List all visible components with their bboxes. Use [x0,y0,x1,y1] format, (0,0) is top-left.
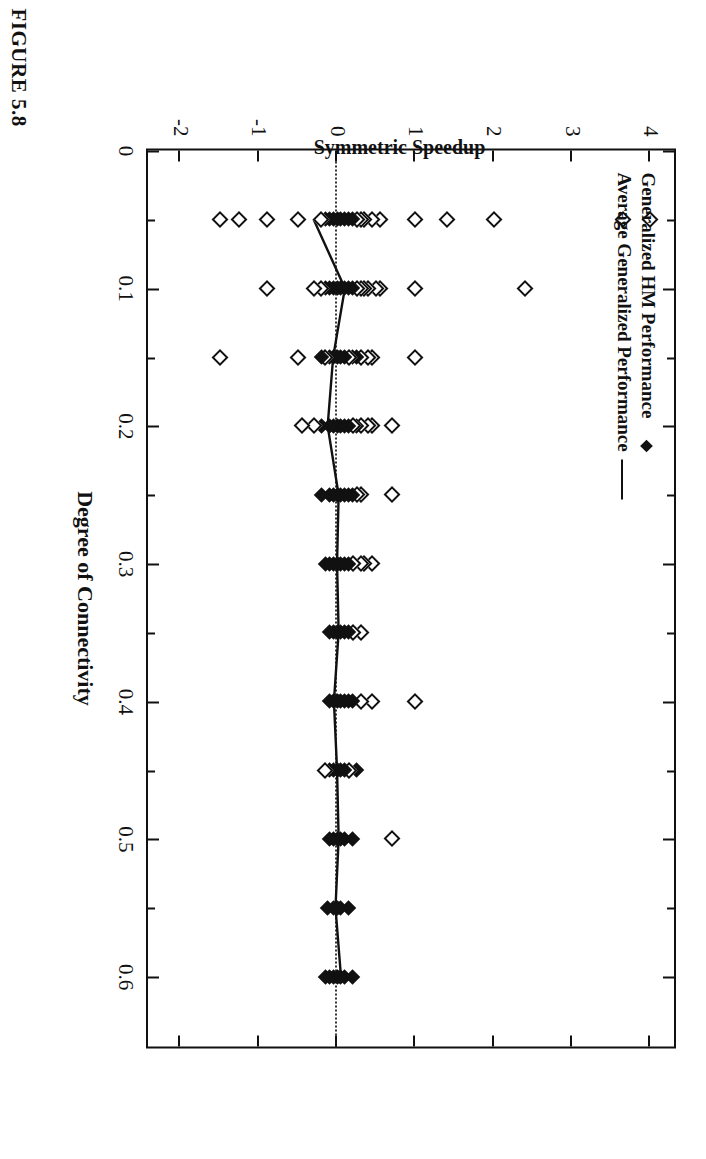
y-tick-label: 2 [481,86,506,136]
y-tick-right [492,1035,494,1046]
x-tick-label: 0.2 [113,413,138,439]
x-minor-tick [148,219,155,221]
y-axis-title: Symmetric Speedup [235,136,565,159]
y-tick-right [413,1035,415,1046]
x-tick-top [663,563,674,565]
x-axis-title: Degree of Connectivity [72,148,98,1048]
x-minor-tick [148,357,155,359]
y-tick [570,150,572,161]
y-tick-label: 1 [402,86,427,136]
x-tick [148,976,159,978]
x-minor-tick [148,770,155,772]
y-tick-right [570,1035,572,1046]
x-minor-tick [148,907,155,909]
x-minor-tick-top [667,632,674,634]
chart-figure: Generalized HM Performance Average Gener… [74,86,686,1086]
y-tick-right [257,1035,259,1046]
x-tick [148,838,159,840]
y-tick-label: 0 [324,86,349,136]
y-tick-label: -1 [246,86,271,136]
x-tick [148,563,159,565]
chart-legend: Generalized HM Performance Average Gener… [611,172,660,507]
x-tick-top [663,288,674,290]
legend-line-icon [611,451,635,507]
x-tick-label: 0 [113,145,138,156]
x-minor-tick-top [667,907,674,909]
x-tick-label: 0.4 [113,688,138,714]
y-tick-right [178,1035,180,1046]
x-tick [148,701,159,703]
x-tick [148,288,159,290]
x-tick-top [663,838,674,840]
y-tick-right [649,1035,651,1046]
average-performance-polyline [314,219,345,976]
x-tick-top [663,701,674,703]
x-minor-tick-top [667,770,674,772]
x-tick-label: 0.5 [113,826,138,852]
x-minor-tick-top [667,494,674,496]
plot-area: Generalized HM Performance Average Gener… [146,148,676,1048]
plot-inner [148,150,674,1046]
y-tick [649,150,651,161]
x-tick [148,150,159,152]
x-minor-tick-top [667,357,674,359]
legend-entry-average: Average Generalized Performance [611,172,635,507]
y-tick-label: -2 [167,86,192,136]
x-tick [148,425,159,427]
y-tick [178,150,180,161]
x-tick-label: 0.3 [113,550,138,576]
x-minor-tick [148,632,155,634]
legend-diamond-icon [636,418,660,474]
x-tick-label: 0.6 [113,964,138,990]
y-tick-label: 3 [559,86,584,136]
legend-entry-hm: Generalized HM Performance [636,172,660,507]
legend-label-hm: Generalized HM Performance [636,172,660,418]
x-tick-top [663,425,674,427]
rotated-page: FIGURE 5.8 Generalized HM Performance Av… [0,0,706,1159]
x-minor-tick [148,494,155,496]
legend-label-average: Average Generalized Performance [611,172,635,451]
figure-caption: FIGURE 5.8 [6,8,31,126]
x-minor-tick-top [667,219,674,221]
x-tick-top [663,976,674,978]
y-tick-right [335,1035,337,1046]
x-tick-top [663,150,674,152]
x-tick-label: 0.1 [113,275,138,301]
y-tick-label: 4 [638,86,663,136]
